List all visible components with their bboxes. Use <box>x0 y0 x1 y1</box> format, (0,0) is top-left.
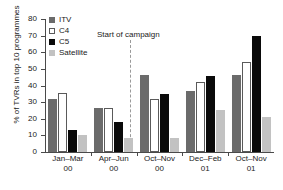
bar-group <box>228 19 274 152</box>
x-axis-separator <box>91 152 92 156</box>
bar-c4 <box>196 82 205 152</box>
bar-itv <box>140 75 149 152</box>
y-axis-tick-label: 20 <box>17 115 37 123</box>
bar-satellite <box>216 110 225 152</box>
x-axis-separator <box>137 152 138 156</box>
bar-c4 <box>242 62 251 152</box>
bar-c5 <box>252 36 261 152</box>
x-axis-line <box>45 152 274 153</box>
bar-itv <box>186 91 195 153</box>
y-axis-tick-label: 10 <box>17 131 37 139</box>
bar-c5 <box>160 94 169 152</box>
bar-satellite <box>262 117 271 152</box>
x-axis-label-period: Dec–Feb <box>189 154 221 163</box>
bar-groups <box>45 19 274 152</box>
bar-group <box>91 19 137 152</box>
x-axis-label-year: 01 <box>221 164 281 174</box>
bar-satellite <box>124 138 133 152</box>
x-axis-label: Oct–Nov01 <box>221 154 281 174</box>
bar-satellite <box>78 135 87 152</box>
bar-satellite <box>170 138 179 152</box>
bar-itv <box>48 99 57 152</box>
y-axis-tick-label: 0 <box>17 148 37 156</box>
x-axis-separator <box>228 152 229 156</box>
bar-c5 <box>114 122 123 152</box>
y-axis-tick-label: 50 <box>17 65 37 73</box>
bar-c4 <box>150 99 159 152</box>
y-axis-tick-label: 60 <box>17 48 37 56</box>
bar-itv <box>232 75 241 152</box>
x-axis-separator <box>182 152 183 156</box>
x-axis-label-period: Oct–Nov <box>144 154 175 163</box>
bar-c5 <box>68 130 77 152</box>
y-axis-tick-label: 40 <box>17 82 37 90</box>
bar-group <box>45 19 91 152</box>
bar-c4 <box>58 93 67 152</box>
y-axis-tick-label: 80 <box>17 15 37 23</box>
bar-c4 <box>104 108 113 152</box>
y-axis-tick-label: 30 <box>17 98 37 106</box>
bar-group <box>137 19 183 152</box>
bar-chart: % of TVRs in top 10 programmes 010203040… <box>0 0 283 190</box>
bar-itv <box>94 108 103 152</box>
bar-group <box>182 19 228 152</box>
x-axis-label-period: Oct–Nov <box>236 154 267 163</box>
x-axis-label-period: Jan–Mar <box>52 154 83 163</box>
bar-c5 <box>206 76 215 152</box>
y-axis-tick-label: 70 <box>17 32 37 40</box>
x-axis-label-period: Apr–Jun <box>99 154 129 163</box>
